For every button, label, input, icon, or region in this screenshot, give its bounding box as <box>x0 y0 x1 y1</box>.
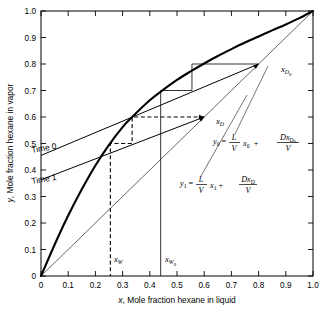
y-tick-label: 0.3 <box>25 193 37 202</box>
x-tick-label: 0.9 <box>280 281 292 290</box>
x-tick-label: 0.5 <box>171 281 183 290</box>
y-tick-label: 0.1 <box>25 246 37 255</box>
x-tick-label: 0.7 <box>226 281 238 290</box>
equation-1-lhs: y1 = <box>179 179 194 189</box>
y-tick-label: 0.9 <box>25 34 37 43</box>
equation-0-lhs: y0 = <box>212 137 227 147</box>
x-tick-label: 0 <box>39 281 44 290</box>
x-tick-label: 1.0 <box>307 281 319 290</box>
x-tick-label: 0.2 <box>90 281 102 290</box>
y-tick-label: 0 <box>31 272 36 281</box>
mccabe-thiele-figure: 00.10.20.30.40.50.60.70.80.91.0 00.10.20… <box>0 0 331 313</box>
figure-background <box>0 0 331 313</box>
y-tick-label: 0.8 <box>25 60 37 69</box>
equation-1-frac1-num: L <box>198 175 204 184</box>
y-tick-label: 0.2 <box>25 219 37 228</box>
y-tick-label: 1.0 <box>25 7 37 16</box>
y-tick-label: 0.7 <box>25 87 37 96</box>
y-tick-label: 0.6 <box>25 113 37 122</box>
x-tick-label: 0.1 <box>63 281 75 290</box>
x-tick-label: 0.4 <box>144 281 156 290</box>
equation-0-term2: x0 + <box>242 139 259 149</box>
equation-0-frac1-num: L <box>231 133 237 142</box>
x-tick-label: 0.6 <box>199 281 211 290</box>
plot-canvas: 00.10.20.30.40.50.60.70.80.91.0 00.10.20… <box>0 0 331 313</box>
y-tick-label: 0.4 <box>25 166 37 175</box>
x-tick-label: 0.8 <box>253 281 265 290</box>
x-tick-label: 0.3 <box>117 281 129 290</box>
y-axis-title: y, Mole fraction hexane in vapor <box>5 83 15 203</box>
x-axis-title: x, Mole fraction hexane in liquid <box>117 295 236 305</box>
equation-1-term2: x1 + <box>209 181 224 191</box>
